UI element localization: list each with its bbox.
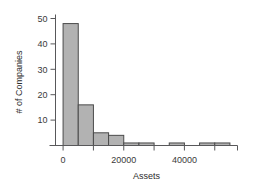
y-axis-tick-label: 30: [37, 65, 47, 75]
x-axis-tick-label: 0: [61, 155, 66, 165]
histogram-bar: [78, 105, 93, 146]
y-axis-tick-label: 40: [37, 39, 47, 49]
y-axis-tick-label: 10: [37, 115, 47, 125]
histogram-chart: 102030405002000040000Assets# of Companie…: [0, 0, 261, 188]
histogram-bar: [109, 135, 124, 145]
y-axis-title: # of Companies: [14, 50, 24, 114]
histogram-bar: [63, 24, 78, 146]
y-axis-tick-label: 50: [37, 14, 47, 24]
plot-area: 102030405002000040000Assets# of Companie…: [0, 0, 261, 188]
histogram-bar: [93, 133, 108, 146]
x-axis-tick-label: 40000: [172, 155, 197, 165]
y-axis-tick-label: 20: [37, 90, 47, 100]
x-axis-title: Assets: [133, 171, 161, 181]
chart-canvas: 102030405002000040000Assets# of Companie…: [0, 0, 261, 188]
x-axis-tick-label: 20000: [111, 155, 136, 165]
